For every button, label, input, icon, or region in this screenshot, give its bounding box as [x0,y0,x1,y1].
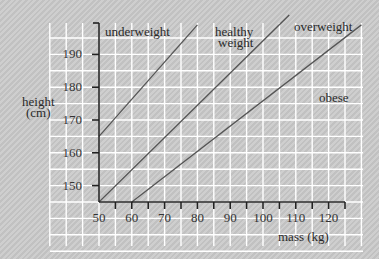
y-tick-labels: 150160170180190 [63,46,83,192]
region-label-underweight: underweight [105,24,170,39]
x-tick-label: 110 [286,210,305,225]
region-label-obese: obese [319,90,349,105]
axes [92,23,345,209]
y-tick-label: 160 [63,145,83,160]
x-tick-label: 120 [319,210,339,225]
region-label-overweight: overweight [294,19,353,34]
y-tick-label: 170 [63,112,83,127]
x-tick-label: 70 [158,210,171,225]
x-tick-labels: 5060708090100110120 [93,210,339,225]
x-tick-label: 80 [191,210,204,225]
bmi-chart: 5060708090100110120 150160170180190 unde… [0,0,379,259]
x-tick-label: 50 [93,210,106,225]
y-tick-label: 180 [63,79,83,94]
x-axis-label: mass (kg) [278,229,329,244]
x-tick-label: 90 [224,210,237,225]
boundary-line [99,15,289,202]
y-tick-label: 190 [63,46,83,61]
region-label-healthy-line2: weight [218,35,254,50]
y-axis-label-line2: (cm) [26,105,51,120]
y-tick-label: 150 [63,178,83,193]
x-tick-label: 60 [125,210,138,225]
x-tick-label: 100 [253,210,273,225]
